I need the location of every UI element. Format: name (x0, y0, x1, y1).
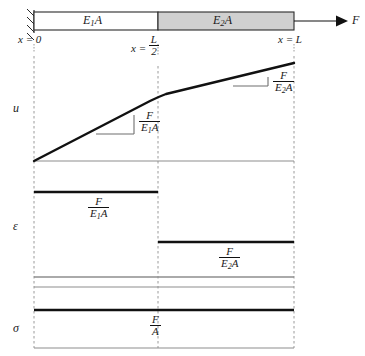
strain-2-denominator: E2A (219, 257, 240, 271)
slope-2-numerator: F (273, 70, 294, 81)
strain-1-denominator: E1A (88, 207, 109, 221)
x-tick-0-label: x = 0 (18, 33, 41, 45)
strain-label-segment-2: F E2A (219, 246, 240, 271)
force-label: F (352, 13, 359, 28)
bar-segment-1-label: E1A (83, 13, 102, 28)
slope-triangle-2 (233, 77, 268, 86)
slope-1-denominator: E1A (139, 121, 160, 135)
x-tick-L-label: x = L (278, 33, 302, 45)
strain-axis-label: ε (13, 219, 18, 234)
slope-label-segment-2: F E2A (273, 70, 294, 95)
x-half-numerator: L (149, 34, 159, 45)
strain-2-numerator: F (219, 246, 240, 257)
displacement-axis-label: u (13, 101, 19, 116)
displacement-curve (34, 63, 294, 161)
force-arrow-head-icon (336, 16, 348, 27)
station-dashed-lines (34, 56, 294, 348)
strain-1-numerator: F (88, 196, 109, 207)
stress-label-constant: F A (150, 314, 161, 339)
x-half-denominator: 2 (149, 45, 159, 57)
stress-numerator: F (150, 314, 161, 325)
strain-curve (34, 192, 294, 242)
stress-axis-label: σ (13, 321, 19, 336)
x-tick-stubs (34, 44, 294, 56)
x-tick-half-label: x = L 2 (131, 31, 159, 54)
strain-label-segment-1: F E1A (88, 196, 109, 221)
stress-denominator: A (150, 325, 161, 339)
figure-vector-layer (0, 0, 365, 356)
slope-1-numerator: F (139, 110, 160, 121)
slope-label-segment-1: F E1A (139, 110, 160, 135)
figure-root: E1A E2A F x = 0 x = L 2 x = L u ε σ F E1… (0, 0, 365, 356)
slope-2-denominator: E2A (273, 81, 294, 95)
bar-segment-2-label: E2A (213, 13, 232, 28)
plot-baselines (34, 161, 294, 348)
